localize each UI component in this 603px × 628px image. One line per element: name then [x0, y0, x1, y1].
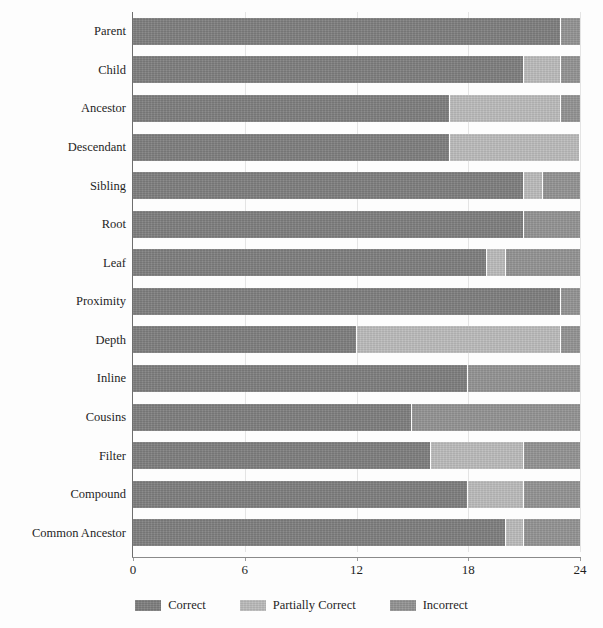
y-axis-tick-label: Depth	[2, 333, 126, 347]
gridline	[357, 12, 358, 552]
legend-label: Incorrect	[423, 598, 468, 613]
bar-row	[133, 404, 580, 431]
bar-segment-correct	[133, 249, 487, 276]
bar-segment-incorrect	[524, 481, 580, 508]
y-axis-tick-label: Inline	[2, 371, 126, 385]
x-axis-tick-label: 18	[462, 561, 475, 579]
legend-item[interactable]: Partially Correct	[240, 598, 356, 613]
plot-area	[133, 12, 580, 552]
y-axis-tick-label: Filter	[2, 449, 126, 463]
y-axis-tick-label: Proximity	[2, 294, 126, 308]
bar-segment-correct	[133, 442, 431, 469]
legend-item[interactable]: Incorrect	[390, 598, 468, 613]
legend-label: Partially Correct	[273, 598, 356, 613]
bar-row	[133, 56, 580, 83]
x-axis-tick-label: 12	[350, 561, 363, 579]
bar-segment-correct	[133, 211, 524, 238]
y-axis-tick-label: Compound	[2, 487, 126, 501]
gridline	[468, 12, 469, 552]
legend-label: Correct	[168, 598, 205, 613]
bar-segment-incorrect	[524, 211, 580, 238]
bar-segment-incorrect	[561, 56, 580, 83]
legend-swatch-incorrect	[390, 600, 416, 611]
bar-segment-partially-correct	[450, 134, 580, 161]
y-axis-tick-label: Leaf	[2, 256, 126, 270]
legend-swatch-correct	[135, 600, 161, 611]
legend-swatch-partially-correct	[240, 600, 266, 611]
bar-segment-correct	[133, 172, 524, 199]
bar-row	[133, 95, 580, 122]
bar-row	[133, 211, 580, 238]
bar-segment-correct	[133, 481, 468, 508]
bar-segment-correct	[133, 18, 561, 45]
bar-row	[133, 18, 580, 45]
y-axis-tick-label: Parent	[2, 24, 126, 38]
bar-row	[133, 365, 580, 392]
gridline	[580, 12, 581, 552]
x-axis-tick-label: 0	[130, 561, 137, 579]
bar-segment-partially-correct	[487, 249, 506, 276]
bar-row	[133, 442, 580, 469]
x-axis-tick-label: 24	[574, 561, 587, 579]
bar-segment-incorrect	[524, 519, 580, 546]
y-axis-line	[132, 12, 133, 558]
bar-segment-correct	[133, 365, 468, 392]
bar-row	[133, 288, 580, 315]
bar-segment-incorrect	[412, 404, 580, 431]
bar-segment-correct	[133, 56, 524, 83]
bar-segment-partially-correct	[468, 481, 524, 508]
y-axis-tick-label: Descendant	[2, 140, 126, 154]
bar-segment-correct	[133, 288, 561, 315]
y-axis-tick-label: Sibling	[2, 179, 126, 193]
bar-segment-incorrect	[561, 326, 580, 353]
gridline	[245, 12, 246, 552]
bar-segment-partially-correct	[506, 519, 525, 546]
chart-legend: CorrectPartially CorrectIncorrect	[0, 598, 603, 613]
x-axis-tick-label: 6	[242, 561, 249, 579]
bar-segment-correct	[133, 95, 450, 122]
bar-row	[133, 249, 580, 276]
x-axis-tick-labels: 06121824	[133, 561, 580, 583]
y-axis-tick-label: Cousins	[2, 410, 126, 424]
bar-segment-partially-correct	[524, 56, 561, 83]
y-axis-tick-label: Root	[2, 217, 126, 231]
bar-row	[133, 481, 580, 508]
x-axis-line	[132, 557, 581, 558]
bar-segment-incorrect	[506, 249, 581, 276]
bar-row	[133, 519, 580, 546]
legend-item[interactable]: Correct	[135, 598, 205, 613]
bar-segment-partially-correct	[524, 172, 543, 199]
bar-row	[133, 134, 580, 161]
bar-segment-incorrect	[468, 365, 580, 392]
y-axis-tick-label: Common Ancestor	[2, 526, 126, 540]
bar-segment-correct	[133, 134, 450, 161]
bar-segment-partially-correct	[431, 442, 524, 469]
bar-segment-correct	[133, 519, 506, 546]
bar-segment-partially-correct	[450, 95, 562, 122]
bar-segment-partially-correct	[357, 326, 562, 353]
y-axis-tick-labels: ParentChildAncestorDescendantSiblingRoot…	[0, 12, 126, 552]
bar-segment-correct	[133, 326, 357, 353]
y-axis-tick-label: Child	[2, 63, 126, 77]
bar-row	[133, 326, 580, 353]
bar-segment-incorrect	[561, 95, 580, 122]
bar-segment-incorrect	[561, 288, 580, 315]
stacked-bar-chart: ParentChildAncestorDescendantSiblingRoot…	[0, 0, 603, 628]
bar-segment-correct	[133, 404, 412, 431]
bar-segment-incorrect	[524, 442, 580, 469]
bar-segment-incorrect	[543, 172, 580, 199]
bar-row	[133, 172, 580, 199]
bar-segment-incorrect	[561, 18, 580, 45]
y-axis-tick-label: Ancestor	[2, 101, 126, 115]
